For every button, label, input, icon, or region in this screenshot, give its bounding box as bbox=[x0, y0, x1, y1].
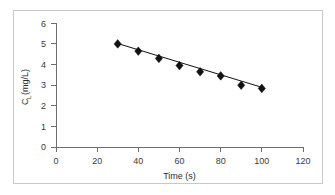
x-tick-label-40: 40 bbox=[133, 156, 143, 166]
chart-figure: 6 5 4 3 2 1 0 0 20 40 bbox=[0, 0, 335, 195]
x-tick-label-20: 20 bbox=[92, 156, 102, 166]
y-axis-ticks bbox=[51, 23, 56, 147]
chart-canvas: 6 5 4 3 2 1 0 0 20 40 bbox=[14, 11, 322, 183]
x-tick-label-100: 100 bbox=[254, 156, 269, 166]
data-point-30 bbox=[114, 40, 121, 49]
x-tick-label-120: 120 bbox=[295, 156, 310, 166]
y-tick-label-2: 2 bbox=[41, 101, 46, 111]
y-tick-label-4: 4 bbox=[41, 60, 46, 70]
x-axis-ticks bbox=[56, 147, 303, 152]
x-tick-label-0: 0 bbox=[53, 156, 58, 166]
y-tick-label-0: 0 bbox=[41, 142, 46, 152]
x-tick-label-60: 60 bbox=[174, 156, 184, 166]
y-axis-tick-labels: 6 5 4 3 2 1 0 bbox=[41, 19, 46, 153]
data-point-40 bbox=[135, 47, 142, 56]
y-tick-label-5: 5 bbox=[41, 39, 46, 49]
x-axis-title: Time (s) bbox=[163, 171, 196, 181]
y-tick-label-1: 1 bbox=[41, 122, 46, 132]
chart-plot-frame: 6 5 4 3 2 1 0 0 20 40 bbox=[13, 10, 323, 184]
y-tick-label-6: 6 bbox=[41, 19, 46, 29]
x-axis-tick-labels: 0 20 40 60 80 100 120 bbox=[53, 156, 310, 166]
x-tick-label-80: 80 bbox=[216, 156, 226, 166]
data-point-100 bbox=[258, 84, 265, 93]
y-tick-label-3: 3 bbox=[41, 80, 46, 90]
y-axis-title: C L (mg/L) bbox=[20, 69, 32, 105]
y-axis-title-units: (mg/L) bbox=[20, 69, 30, 95]
chart-axes bbox=[56, 23, 303, 147]
data-series-cl bbox=[114, 40, 265, 93]
data-point-80 bbox=[217, 72, 224, 81]
